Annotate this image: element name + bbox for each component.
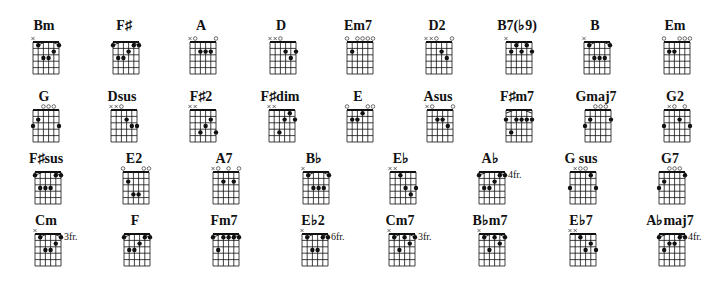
fretboard-grid [635, 0, 705, 287]
fretboard-grid [100, 0, 170, 287]
fretboard-grid [455, 0, 525, 287]
fretboard-grid [546, 0, 616, 287]
fretboard-grid [365, 0, 435, 287]
fret-position-label: 4fr. [688, 231, 702, 242]
fret-position-label: 3fr. [418, 231, 432, 242]
fret-position-label: 6fr. [331, 231, 345, 242]
fretboard-grid [278, 0, 348, 287]
fretboard-grid [11, 0, 81, 287]
fret-position-label: 3fr. [64, 231, 78, 242]
fretboard-grid [189, 0, 259, 287]
